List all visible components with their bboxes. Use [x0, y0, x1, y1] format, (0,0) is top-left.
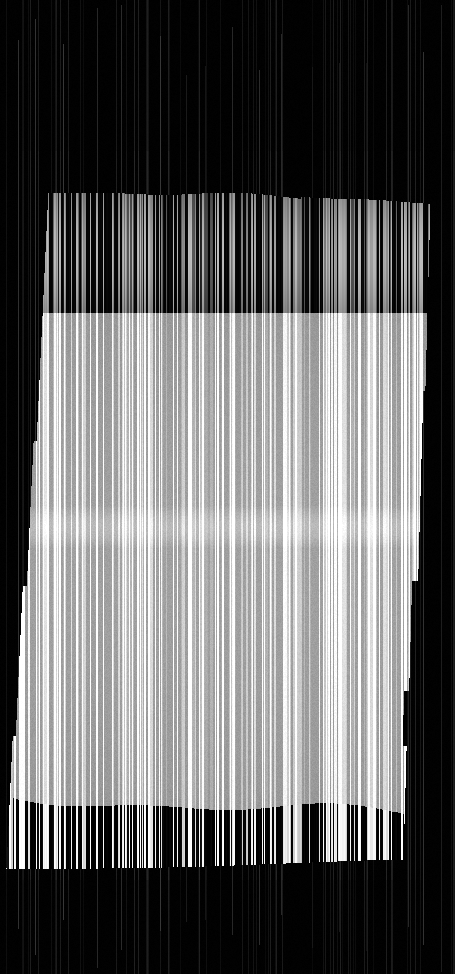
- slit-scan-image: Slit-scan vertical stripe composition: [0, 0, 455, 974]
- stripe-composition-canvas: [0, 0, 455, 974]
